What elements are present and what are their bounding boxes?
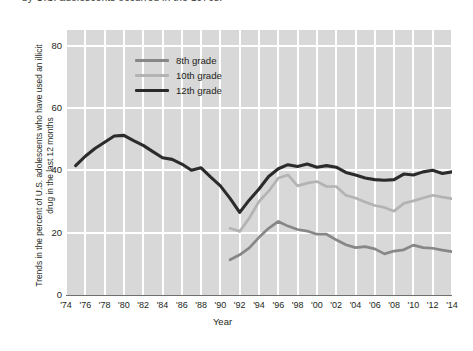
legend-swatch-icon	[135, 74, 169, 77]
y-tick-label: 0	[38, 289, 62, 300]
legend-item-12th-grade[interactable]: 12th grade	[135, 83, 222, 98]
legend-label: 12th grade	[176, 85, 222, 96]
legend-label: 10th grade	[176, 70, 222, 81]
legend-swatch-icon	[135, 89, 169, 93]
x-axis-title: Year	[0, 316, 473, 327]
x-axis-ticks: '74'76'78'80'82'84'86'88'90'92'94'96'98'…	[0, 300, 473, 316]
legend-item-8th-grade[interactable]: 8th grade	[135, 53, 222, 68]
x-axis-line	[66, 295, 452, 296]
legend: 8th grade10th grade12th grade	[135, 53, 222, 98]
y-tick-label: 60	[38, 102, 62, 113]
illicit-drug-use-trend-chart: by U.S. adolescents occurred in the 1970…	[0, 0, 473, 351]
legend-swatch-icon	[135, 59, 169, 62]
x-axis-title-text: Year	[213, 316, 232, 327]
y-tick-label: 80	[38, 40, 62, 51]
legend-label: 8th grade	[176, 55, 217, 66]
y-tick-label: 40	[38, 164, 62, 175]
x-tick-label: '14	[439, 300, 465, 310]
y-tick-label: 20	[38, 227, 62, 238]
legend-item-10th-grade[interactable]: 10th grade	[135, 68, 222, 83]
y-axis-ticks: 020406080	[0, 0, 473, 351]
